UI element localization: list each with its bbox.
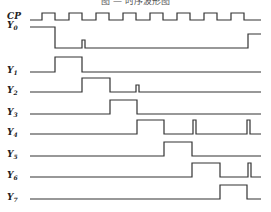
signal-y0: Y0 [7, 20, 261, 48]
signal-y3: Y3 [7, 100, 261, 118]
signal-y4: Y4 [7, 120, 261, 138]
signal-y1: Y1 [7, 57, 261, 76]
signal-y2: Y2 [7, 78, 261, 96]
signal-label-y4: Y4 [7, 127, 18, 138]
signal-label-y1: Y1 [7, 65, 18, 76]
signal-label-y7: Y7 [7, 192, 18, 203]
signal-label-y0: Y0 [7, 20, 18, 31]
waveform-y4 [30, 120, 261, 134]
signal-cp: CP [7, 11, 261, 21]
waveform-cp [30, 13, 261, 20]
signal-label-y3: Y3 [7, 107, 18, 118]
signal-y7: Y7 [7, 185, 261, 203]
signal-y5: Y5 [7, 142, 261, 160]
waveform-y5 [30, 142, 261, 156]
signal-y6: Y6 [7, 163, 261, 181]
waveform-y3 [30, 100, 261, 114]
timing-diagram: CPY0Y1Y2Y3Y4Y5Y6Y7 [0, 0, 271, 212]
waveform-y1 [30, 57, 261, 72]
waveform-y6 [30, 163, 261, 177]
signal-label-y5: Y5 [7, 149, 18, 160]
waveform-y7 [30, 185, 261, 199]
waveform-y2 [30, 78, 261, 92]
signal-label-y2: Y2 [7, 85, 18, 96]
waveform-y0 [30, 27, 261, 48]
signal-label-y6: Y6 [7, 170, 18, 181]
